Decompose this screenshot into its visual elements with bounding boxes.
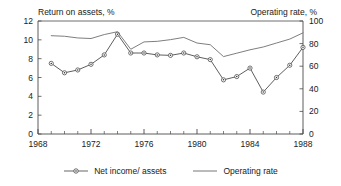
left-tick-label: 8 — [15, 54, 33, 64]
x-tick-label: 1988 — [283, 139, 323, 149]
legend-marker-line-icon — [63, 166, 89, 176]
x-tick-label: 1976 — [124, 139, 164, 149]
chart-figure: Return on assets, % Operating rate, % 02… — [0, 0, 341, 186]
chart-legend: Net income/ assets Operating rate — [0, 162, 341, 180]
x-tick-label: 1972 — [71, 139, 111, 149]
right-tick-label: 100 — [309, 16, 331, 26]
chart-plot-area — [0, 0, 341, 186]
left-tick-label: 0 — [15, 129, 33, 139]
x-tick-label: 1968 — [18, 139, 58, 149]
left-tick-label: 6 — [15, 73, 33, 83]
legend-plain-line-icon — [192, 166, 218, 176]
right-tick-label: 20 — [309, 106, 331, 116]
right-tick-label: 60 — [309, 61, 331, 71]
left-tick-label: 10 — [15, 35, 33, 45]
x-tick-label: 1980 — [177, 139, 217, 149]
left-tick-label: 4 — [15, 91, 33, 101]
left-tick-label: 2 — [15, 110, 33, 120]
legend-label-net-income: Net income/ assets — [94, 166, 166, 176]
legend-item-operating-rate: Operating rate — [192, 166, 277, 176]
legend-label-operating-rate: Operating rate — [223, 166, 277, 176]
right-tick-label: 80 — [309, 39, 331, 49]
legend-item-net-income: Net income/ assets — [63, 166, 166, 176]
right-tick-label: 40 — [309, 84, 331, 94]
right-tick-label: 0 — [309, 129, 331, 139]
left-tick-label: 12 — [15, 16, 33, 26]
x-tick-label: 1984 — [230, 139, 270, 149]
